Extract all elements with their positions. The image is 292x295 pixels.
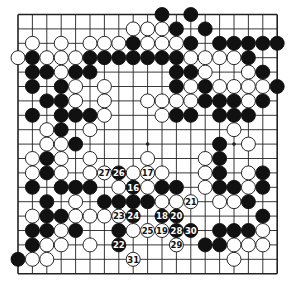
- black-stone: [11, 252, 25, 266]
- black-stone: [40, 94, 54, 108]
- white-stone: [69, 209, 83, 223]
- white-stone: [54, 137, 68, 151]
- black-stone: [241, 36, 255, 50]
- white-stone: [40, 252, 54, 266]
- black-stone: [54, 123, 68, 137]
- black-stone: [213, 137, 227, 151]
- black-stone: [169, 180, 183, 194]
- white-stone: [83, 209, 97, 223]
- black-stone: [112, 51, 126, 65]
- move-number: 17: [142, 168, 154, 178]
- move-number: 24: [127, 211, 139, 221]
- black-stone: [112, 195, 126, 209]
- white-stone: [54, 224, 68, 238]
- move-number: 23: [113, 211, 125, 221]
- black-stone: [256, 166, 270, 180]
- white-stone: [155, 22, 169, 36]
- black-stone: [169, 51, 183, 65]
- white-stone: [213, 80, 227, 94]
- black-stone: [169, 80, 183, 94]
- white-stone: [25, 252, 39, 266]
- white-stone: [40, 51, 54, 65]
- white-stone: [227, 238, 241, 252]
- black-stone: [227, 94, 241, 108]
- black-stone: [213, 180, 227, 194]
- move-number: 26: [113, 168, 125, 178]
- black-stone: [40, 152, 54, 166]
- white-stone: [83, 166, 97, 180]
- black-stone: [25, 224, 39, 238]
- white-stone: 21: [184, 195, 198, 209]
- black-stone: [213, 224, 227, 238]
- hoshi-point: [232, 142, 236, 146]
- white-stone: [40, 238, 54, 252]
- black-stone: [126, 195, 140, 209]
- white-stone: [69, 80, 83, 94]
- white-stone: [25, 209, 39, 223]
- black-stone: [213, 108, 227, 122]
- black-stone: [112, 224, 126, 238]
- white-stone: [126, 224, 140, 238]
- black-stone: [184, 65, 198, 79]
- black-stone: [83, 108, 97, 122]
- white-stone: [25, 36, 39, 50]
- white-stone: [69, 51, 83, 65]
- white-stone: [54, 166, 68, 180]
- black-stone: [40, 195, 54, 209]
- white-stone: 29: [169, 238, 183, 252]
- white-stone: [169, 195, 183, 209]
- move-number: 25: [142, 226, 154, 236]
- move-number: 22: [113, 240, 125, 250]
- white-stone: [40, 123, 54, 137]
- white-stone: [54, 36, 68, 50]
- black-stone: [83, 65, 97, 79]
- black-stone: [213, 36, 227, 50]
- black-stone: [184, 108, 198, 122]
- white-stone: [184, 94, 198, 108]
- white-stone: [198, 166, 212, 180]
- white-stone: [54, 152, 68, 166]
- black-stone: [155, 180, 169, 194]
- white-stone: [155, 166, 169, 180]
- move-number: 29: [170, 240, 182, 250]
- move-number: 31: [127, 255, 139, 265]
- white-stone: [126, 22, 140, 36]
- black-stone: [54, 80, 68, 94]
- black-stone: [25, 65, 39, 79]
- black-stone: [213, 166, 227, 180]
- black-stone: [256, 36, 270, 50]
- black-stone: 16: [126, 180, 140, 194]
- white-stone: [241, 238, 255, 252]
- black-stone: 24: [126, 209, 140, 223]
- black-stone: [69, 137, 83, 151]
- black-stone: [198, 238, 212, 252]
- white-stone: [198, 180, 212, 194]
- white-stone: [54, 238, 68, 252]
- white-stone: [141, 94, 155, 108]
- black-stone: [54, 94, 68, 108]
- black-stone: [141, 51, 155, 65]
- black-stone: [256, 180, 270, 194]
- black-stone: [25, 180, 39, 194]
- hoshi-point: [146, 142, 150, 146]
- white-stone: [141, 36, 155, 50]
- white-stone: [198, 51, 212, 65]
- white-stone: [227, 51, 241, 65]
- black-stone: 18: [155, 209, 169, 223]
- black-stone: [40, 166, 54, 180]
- white-stone: [112, 180, 126, 194]
- black-stone: [97, 195, 111, 209]
- white-stone: [169, 36, 183, 50]
- black-stone: [256, 209, 270, 223]
- black-stone: [227, 224, 241, 238]
- black-stone: [25, 80, 39, 94]
- black-stone: [241, 224, 255, 238]
- black-stone: [213, 94, 227, 108]
- white-stone: [11, 51, 25, 65]
- black-stone: [54, 209, 68, 223]
- white-stone: [241, 137, 255, 151]
- white-stone: [69, 195, 83, 209]
- white-stone: [141, 22, 155, 36]
- black-stone: [213, 238, 227, 252]
- white-stone: [241, 94, 255, 108]
